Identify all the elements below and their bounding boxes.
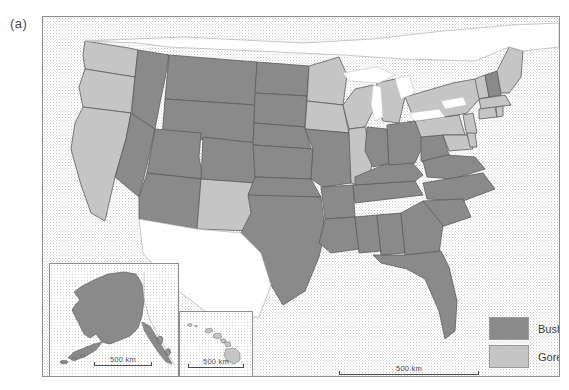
lake-michigan — [371, 85, 383, 121]
state-AK — [72, 272, 144, 344]
state-MN — [307, 57, 347, 105]
state-WI — [343, 85, 375, 129]
scalebar-main: 500 km — [339, 361, 479, 375]
legend-item-gore: Gore — [489, 345, 559, 368]
state-FL — [373, 251, 457, 339]
legend-swatch-gore — [489, 345, 529, 368]
legend-item-bush: Bush — [489, 317, 559, 340]
state-AL — [377, 213, 405, 255]
state-IA — [305, 101, 349, 133]
state-AR — [321, 185, 355, 219]
state-KS — [253, 145, 313, 179]
state-NE — [253, 123, 311, 149]
state-ME — [497, 47, 523, 93]
state-ND — [255, 62, 309, 96]
state-RI — [496, 106, 503, 117]
map-legend: Bush Gore — [489, 317, 559, 373]
state-UT — [147, 129, 203, 179]
state-SD — [254, 93, 307, 127]
scalebar-main-label: 500 km — [339, 364, 479, 373]
state-CO — [201, 137, 257, 183]
state-MT — [165, 55, 257, 105]
legend-label-bush: Bush — [538, 323, 560, 335]
state-CT — [479, 107, 497, 119]
scalebar-alaska-label: 500 km — [94, 355, 152, 364]
legend-label-gore: Gore — [538, 351, 560, 363]
scalebar-hawaii-label: 500 km — [188, 357, 244, 366]
map-frame: 500 km 500 km — [42, 16, 560, 377]
state-LA — [319, 217, 359, 253]
state-MS — [355, 215, 381, 253]
state-OR — [79, 69, 135, 113]
scalebar-hawaii: 500 km — [188, 354, 244, 368]
hawaii-inset: 500 km — [179, 311, 253, 377]
alaska-inset: 500 km — [49, 263, 179, 377]
panel-label: (a) — [10, 16, 27, 31]
legend-swatch-bush — [489, 317, 529, 340]
scalebar-alaska: 500 km — [94, 352, 152, 366]
